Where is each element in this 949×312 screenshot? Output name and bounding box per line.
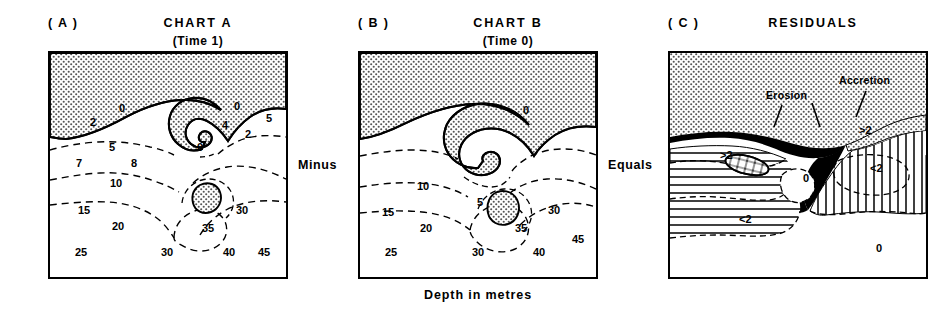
chart-a-labels: 0 2 0 5 4 2 5 7 8 0 10 15 20 30 35 25 30…: [50, 53, 286, 277]
depth-label: 20: [420, 223, 432, 234]
depth-label: 2: [245, 129, 251, 140]
depth-label: 5: [109, 142, 115, 153]
depth-label: 45: [258, 247, 270, 258]
depth-label: 30: [161, 247, 173, 258]
depth-label: 30: [472, 247, 484, 258]
panel-b-title: CHART B: [418, 16, 598, 30]
zone-label: 0: [876, 243, 882, 254]
accretion-annotation: Accretion: [839, 75, 890, 86]
depth-label: 10: [110, 178, 122, 189]
depth-label: 40: [533, 247, 545, 258]
residuals-labels: Erosion Accretion >2 <2 >2 <2 0 0: [670, 53, 926, 277]
zone-label: 0: [803, 173, 809, 184]
zone-label: >2: [859, 125, 872, 136]
depth-label: 10: [417, 181, 429, 192]
chart-b-panel: 0 10 5 15 20 30 35 45 25 30 40: [358, 51, 598, 279]
panel-a-title: CHART A: [108, 16, 288, 30]
chart-b-labels: 0 10 5 15 20 30 35 45 25 30 40: [360, 53, 596, 277]
depth-label: 5: [266, 113, 272, 124]
residuals-panel: Erosion Accretion >2 <2 >2 <2 0 0: [668, 51, 928, 279]
depth-label: 0: [197, 142, 203, 153]
depth-label: 30: [548, 205, 560, 216]
panel-a-subtitle: (Time 1): [108, 34, 288, 48]
panel-a-tag: ( A ): [48, 16, 78, 30]
depth-label: 0: [119, 103, 125, 114]
depth-label: 20: [112, 221, 124, 232]
depth-label: 7: [76, 158, 82, 169]
depth-label: 35: [202, 223, 214, 234]
panel-b-subtitle: (Time 0): [418, 34, 598, 48]
depth-label: 30: [236, 205, 248, 216]
depth-label: 0: [523, 105, 529, 116]
depth-label: 15: [382, 207, 394, 218]
depth-label: 8: [131, 158, 137, 169]
zone-label: <2: [739, 214, 752, 225]
panel-c-title: RESIDUALS: [723, 16, 903, 30]
depth-label: 2: [90, 117, 96, 128]
depth-label: 35: [515, 223, 527, 234]
zone-label: >2: [720, 150, 733, 161]
depth-label: 4: [222, 120, 228, 131]
depth-label: 25: [385, 247, 397, 258]
depth-label: 0: [234, 101, 240, 112]
panel-b-tag: ( B ): [358, 16, 389, 30]
depth-label: 45: [572, 234, 584, 245]
figure-root: ( A ) CHART A (Time 1) ( B ) CHART B (Ti…: [0, 0, 949, 312]
connector-minus: Minus: [298, 158, 337, 172]
connector-equals: Equals: [608, 158, 653, 172]
chart-a-panel: 0 2 0 5 4 2 5 7 8 0 10 15 20 30 35 25 30…: [48, 51, 288, 279]
zone-label: <2: [870, 163, 883, 174]
depth-label: 40: [223, 247, 235, 258]
depth-label: 25: [75, 247, 87, 258]
figure-caption: Depth in metres: [358, 288, 598, 302]
depth-label: 5: [477, 197, 483, 208]
erosion-annotation: Erosion: [766, 90, 807, 101]
panel-c-tag: ( C ): [668, 16, 699, 30]
depth-label: 15: [78, 205, 90, 216]
